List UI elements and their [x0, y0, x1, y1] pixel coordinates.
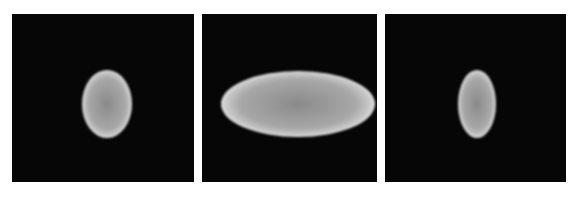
bright-ellipse [221, 71, 375, 137]
ellipse-graphic [12, 14, 194, 182]
image-panel-wide-ellipse [202, 14, 377, 182]
image-panel-narrow-ellipse [385, 14, 566, 182]
ellipse-graphic [202, 14, 377, 182]
bright-ellipse [82, 70, 132, 138]
bright-ellipse [458, 70, 496, 138]
image-panel-round-ellipse [12, 14, 194, 182]
ellipse-graphic [385, 14, 566, 182]
